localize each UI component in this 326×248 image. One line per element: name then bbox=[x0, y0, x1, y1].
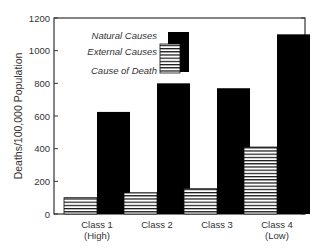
x-category-label: Class 2 bbox=[141, 219, 173, 230]
x-category-label: (Low) bbox=[265, 230, 289, 241]
bar-external-causes bbox=[64, 198, 97, 214]
plot-area: 020040060080010001200Deaths/100,000 Popu… bbox=[12, 13, 310, 242]
legend-swatch-external bbox=[160, 44, 180, 73]
legend-title: Cause of Death bbox=[91, 65, 157, 76]
y-tick-label: 1200 bbox=[29, 13, 50, 24]
x-category-label: (High) bbox=[84, 230, 110, 241]
x-category-label: Class 4 bbox=[261, 219, 293, 230]
y-tick-label: 800 bbox=[34, 78, 50, 89]
y-tick-label: 200 bbox=[34, 176, 50, 187]
x-category-label: Class 1 bbox=[81, 219, 113, 230]
legend-entry-natural: Natural Causes bbox=[92, 30, 158, 41]
bar-external-causes bbox=[124, 193, 157, 214]
bar-external-causes bbox=[244, 147, 277, 214]
bar-chart: 020040060080010001200Deaths/100,000 Popu… bbox=[0, 0, 326, 248]
y-tick-label: 600 bbox=[34, 111, 50, 122]
legend-entry-external: External Causes bbox=[87, 46, 157, 57]
y-axis-label: Deaths/100,000 Population bbox=[12, 53, 24, 180]
bar-natural-causes bbox=[277, 34, 310, 214]
x-category-label: Class 3 bbox=[201, 219, 233, 230]
bar-external-causes bbox=[184, 189, 217, 214]
y-tick-label: 1000 bbox=[29, 45, 50, 56]
y-tick-label: 0 bbox=[45, 209, 50, 220]
y-tick-label: 400 bbox=[34, 143, 50, 154]
